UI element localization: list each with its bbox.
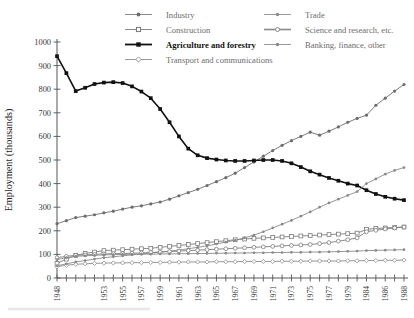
data-point	[290, 161, 294, 165]
data-point	[205, 156, 209, 160]
data-point	[346, 232, 350, 236]
legend-label: Science and research, etc.	[305, 25, 394, 35]
data-point	[224, 159, 228, 163]
data-point	[196, 242, 200, 246]
legend-item-agriculture-and-forestry: Agriculture and forestry	[125, 40, 257, 50]
series-agriculture-and-forestry	[55, 54, 406, 202]
legend-label: Banking, finance, other	[305, 40, 386, 50]
data-point	[318, 233, 322, 237]
data-point	[384, 249, 387, 252]
data-point	[243, 159, 247, 163]
data-point	[281, 251, 284, 254]
data-point	[205, 184, 208, 187]
data-point	[103, 256, 106, 259]
data-point	[280, 235, 284, 239]
legend-label: Trade	[305, 10, 325, 20]
data-point	[393, 258, 397, 262]
data-point	[253, 234, 256, 237]
data-point	[365, 188, 369, 192]
x-axis: 1948195319551957195919611963196519671969…	[53, 275, 409, 302]
data-point	[93, 258, 96, 261]
data-point	[196, 153, 200, 157]
data-point	[159, 253, 162, 256]
legend-label: Construction	[166, 25, 211, 35]
data-point	[168, 253, 171, 256]
x-tick-label: 1986	[381, 286, 390, 301]
data-point	[262, 251, 265, 254]
data-point	[299, 243, 303, 247]
y-tick-label: 700	[38, 109, 51, 118]
data-point	[271, 149, 274, 152]
data-point	[140, 247, 144, 251]
data-point	[402, 83, 405, 86]
y-tick-label: 500	[38, 156, 51, 165]
data-point	[158, 260, 162, 264]
data-point	[318, 173, 322, 177]
data-point	[102, 211, 105, 214]
data-point	[130, 261, 134, 265]
x-tick-label: 1963	[194, 286, 203, 301]
y-tick-label: 600	[38, 132, 51, 141]
data-point	[84, 215, 87, 218]
data-point	[299, 251, 302, 254]
series-construction	[55, 225, 406, 265]
data-point	[252, 259, 256, 263]
x-tick-label: 1948	[53, 286, 62, 301]
y-tick-label: 900	[38, 62, 51, 71]
y-tick-label: 1000	[34, 38, 51, 47]
chart-legend: Industry Construction Agriculture and fo…	[125, 10, 394, 65]
data-point	[121, 81, 125, 85]
data-point	[243, 246, 247, 250]
data-point	[83, 86, 87, 90]
x-tick-label: 1967	[231, 286, 240, 301]
data-point	[299, 259, 303, 263]
data-point	[149, 96, 153, 100]
data-point	[402, 225, 406, 229]
data-point	[140, 204, 143, 207]
data-point	[383, 195, 387, 199]
data-point	[215, 180, 218, 183]
data-point	[346, 238, 350, 242]
data-point	[55, 222, 58, 225]
data-point	[374, 192, 378, 196]
data-point	[327, 259, 331, 263]
data-point	[130, 206, 133, 209]
data-point	[290, 219, 293, 222]
data-point	[337, 250, 340, 253]
data-point	[111, 80, 115, 84]
data-point	[177, 260, 181, 264]
data-point	[355, 236, 359, 240]
chart-series-layer	[55, 54, 406, 268]
data-point	[186, 147, 190, 151]
data-point	[365, 182, 368, 185]
data-point	[280, 144, 283, 147]
data-point	[186, 243, 190, 247]
data-point	[111, 261, 115, 265]
data-point	[337, 179, 341, 183]
data-point	[83, 262, 87, 266]
data-point	[309, 251, 312, 254]
data-point	[224, 252, 227, 255]
data-point	[243, 166, 246, 169]
data-point	[84, 259, 87, 262]
data-point	[121, 253, 124, 256]
data-point	[139, 261, 143, 265]
data-point	[327, 241, 331, 245]
data-point	[365, 114, 368, 117]
data-point	[261, 259, 265, 263]
data-point	[261, 158, 265, 162]
data-point	[280, 259, 284, 263]
data-point	[224, 241, 227, 244]
data-point	[121, 248, 125, 252]
data-point	[93, 82, 97, 86]
data-point	[336, 232, 340, 236]
data-point	[149, 202, 152, 205]
data-point	[262, 155, 265, 158]
data-point	[328, 250, 331, 253]
data-point	[299, 234, 303, 238]
data-point	[168, 244, 172, 248]
data-point	[271, 251, 274, 254]
data-point	[365, 249, 368, 252]
data-point	[384, 97, 387, 100]
data-point	[224, 247, 228, 251]
